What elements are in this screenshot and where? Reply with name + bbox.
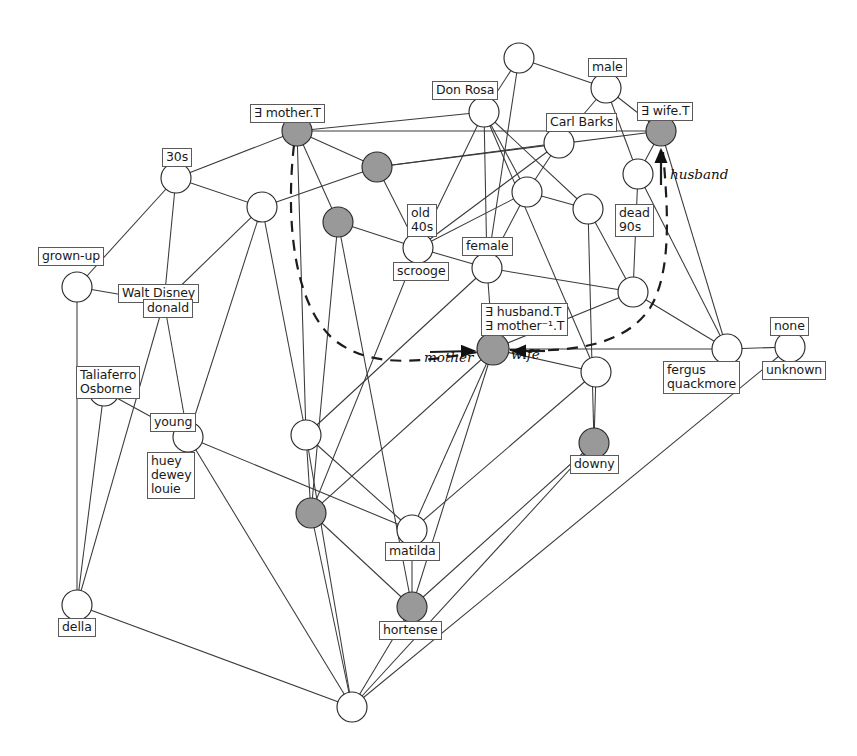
- lattice-node-open[interactable]: [623, 159, 653, 189]
- lattice-edge: [588, 209, 594, 443]
- lattice-edge: [77, 178, 176, 287]
- concept-lattice-diagram: ∃ wife.TmaleDon RosaCarl Barks∃ mother.T…: [0, 0, 857, 756]
- lattice-edge: [77, 605, 352, 707]
- label-huey-dewey-louie: huey dewey louie: [147, 452, 195, 499]
- lattice-edge: [311, 349, 493, 513]
- label-dead-90s: dead 90s: [615, 204, 654, 237]
- label-female: female: [462, 237, 513, 256]
- lattice-node-open[interactable]: [62, 272, 92, 302]
- lattice-edge: [661, 131, 727, 349]
- label-exists-wife-t: ∃ wife.T: [637, 102, 693, 121]
- lattice-node-open[interactable]: [403, 233, 433, 263]
- lattice-edge: [176, 131, 297, 178]
- lattice-edge: [412, 349, 493, 607]
- lattice-node-open[interactable]: [161, 163, 191, 193]
- lattice-edge: [412, 349, 493, 530]
- label-male: male: [588, 58, 627, 77]
- lattice-node-open[interactable]: [512, 177, 542, 207]
- lattice-edge: [188, 437, 352, 707]
- lattice-edge: [77, 391, 104, 605]
- lattice-node-open[interactable]: [291, 420, 321, 450]
- edge-label-mother: mother: [424, 349, 474, 365]
- lattice-edge: [377, 131, 661, 167]
- lattice-edge: [306, 435, 352, 707]
- lattice-node-open[interactable]: [337, 692, 367, 722]
- label-old-40s: old 40s: [407, 204, 437, 237]
- lattice-node-shaded[interactable]: [323, 207, 353, 237]
- lattice-node-open[interactable]: [573, 194, 603, 224]
- lattice-node-open[interactable]: [591, 73, 621, 103]
- lattice-edge: [262, 207, 306, 435]
- lattice-node-open[interactable]: [618, 277, 648, 307]
- lattice-node-shaded[interactable]: [477, 333, 509, 365]
- lattice-node-open[interactable]: [247, 192, 277, 222]
- lattice-node-open[interactable]: [544, 128, 574, 158]
- label-exists-husband-mother: ∃ husband.T ∃ mother⁻¹.T: [481, 303, 568, 336]
- label-unknown: unknown: [762, 361, 826, 380]
- label-fergus-quackmore: fergus quackmore: [663, 361, 740, 394]
- lattice-edge: [311, 222, 338, 513]
- label-don-rosa: Don Rosa: [432, 81, 498, 100]
- label-young: young: [150, 413, 196, 432]
- label-matilda: matilda: [385, 542, 440, 561]
- lattice-node-open[interactable]: [62, 590, 92, 620]
- lattice-node-shaded[interactable]: [646, 116, 676, 146]
- label-exists-mother-t: ∃ mother.T: [250, 104, 325, 123]
- lattice-node-shaded[interactable]: [296, 498, 326, 528]
- lattice-node-open[interactable]: [469, 97, 499, 127]
- label-carl-barks: Carl Barks: [546, 113, 617, 132]
- label-taliaferro: Taliaferro Osborne: [76, 366, 140, 399]
- lattice-node-open[interactable]: [581, 357, 611, 387]
- label-hortense: hortense: [379, 621, 442, 640]
- lattice-node-open[interactable]: [472, 253, 502, 283]
- lattice-node-shaded[interactable]: [397, 592, 427, 622]
- lattice-edge: [262, 167, 377, 207]
- lattice-node-open[interactable]: [712, 334, 742, 364]
- lattice-edge: [297, 112, 484, 131]
- lattice-edge: [188, 207, 262, 437]
- label-grown-up: grown-up: [38, 247, 104, 266]
- edge-label-wife: wife: [511, 346, 540, 362]
- lattice-node-open[interactable]: [775, 332, 805, 362]
- lattice-edge: [412, 372, 596, 530]
- label-none: none: [770, 317, 809, 336]
- edge-label-husband: husband: [670, 166, 728, 182]
- lattice-node-shaded[interactable]: [579, 428, 609, 458]
- label-della: della: [58, 618, 96, 637]
- lattice-node-shaded[interactable]: [362, 152, 392, 182]
- label-30s: 30s: [162, 148, 192, 167]
- lattice-edge: [311, 513, 352, 707]
- label-scrooge: scrooge: [393, 262, 449, 281]
- lattice-node-open[interactable]: [397, 515, 427, 545]
- lattice-node-open[interactable]: [504, 43, 534, 73]
- label-downy: downy: [570, 455, 619, 474]
- label-donald: donald: [143, 299, 193, 318]
